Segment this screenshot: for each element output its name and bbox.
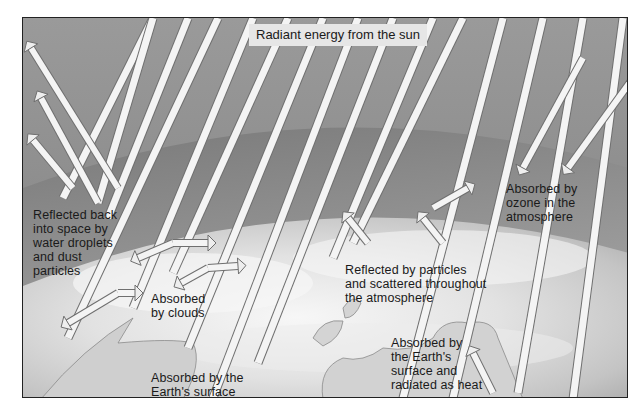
label-absorbed-clouds: Absorbed by clouds — [151, 292, 205, 320]
label-reflected-particles: Reflected by particles and scattered thr… — [345, 263, 486, 305]
diagram-frame: Radiant energy from the sun Reflected ba… — [22, 17, 628, 398]
label-absorbed-surface: Absorbed by the Earth's surface — [151, 371, 244, 398]
label-absorbed-ozone: Absorbed by ozone in the atmosphere — [506, 182, 577, 224]
label-absorbed-radiated: Absorbed by the Earth's surface and radi… — [391, 336, 482, 392]
diagram-title: Radiant energy from the sun — [249, 24, 427, 46]
label-reflected-space: Reflected back into space by water dropl… — [33, 208, 117, 278]
cloud-arrow — [208, 266, 238, 268]
